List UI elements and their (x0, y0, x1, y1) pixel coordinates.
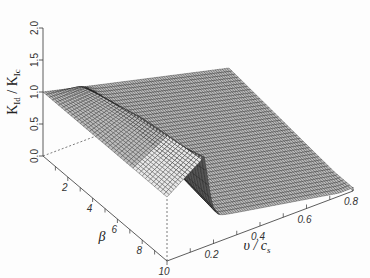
z-tick-label: 2.0 (29, 21, 40, 35)
v-tick-label: 0.2 (205, 249, 219, 260)
surface-plot: 0.00.51.01.52.02468100.20.40.60.8KId / K… (0, 0, 370, 278)
z-tick-label: 1.0 (29, 85, 40, 99)
v-tick-label: 0.6 (298, 214, 312, 225)
beta-tick-label: 4 (87, 203, 93, 214)
v-tick-label: 0.8 (344, 196, 358, 207)
surface-plot-figure: 0.00.51.01.52.02468100.20.40.60.8KId / K… (0, 0, 370, 278)
beta-tick-label: 2 (61, 182, 68, 193)
wireframe-surface (43, 68, 353, 215)
z-tick-label: 1.5 (29, 53, 40, 67)
beta-axis-title-svg: β (98, 229, 106, 244)
z-tick-label: 0.5 (29, 117, 40, 131)
beta-tick-label: 8 (136, 245, 142, 256)
beta-tick-label: 6 (112, 224, 118, 235)
v-axis-title-svg: υ / cs (243, 238, 271, 255)
z-tick-label: 0.0 (29, 149, 40, 163)
z-axis-title-svg: KId / KIc (5, 69, 22, 115)
beta-tick-label: 10 (158, 266, 170, 277)
